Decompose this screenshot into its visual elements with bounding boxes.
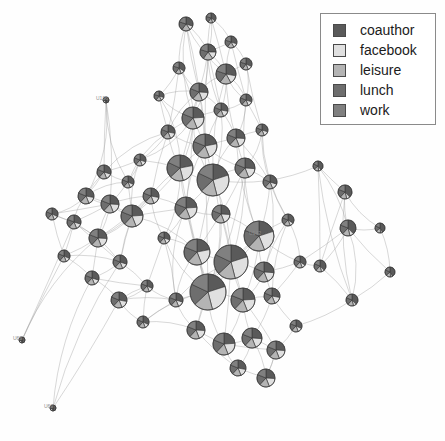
network-node[interactable]: [257, 369, 275, 387]
network-node[interactable]: [294, 256, 306, 268]
legend-label-work: work: [360, 103, 390, 117]
network-node[interactable]: [121, 205, 143, 227]
network-node[interactable]: [167, 155, 193, 181]
network-edge: [288, 220, 300, 262]
network-node[interactable]: [89, 229, 107, 247]
network-node[interactable]: [113, 255, 127, 269]
network-node[interactable]: [267, 341, 285, 359]
network-node[interactable]: [193, 134, 217, 158]
legend-swatch-lunch: [333, 84, 346, 97]
legend-swatch-coauthor: [333, 24, 346, 37]
network-node[interactable]: [216, 64, 236, 84]
network-node[interactable]: [212, 205, 230, 223]
network-node[interactable]: [175, 197, 197, 219]
network-edge: [343, 192, 352, 300]
network-edge: [380, 228, 390, 272]
network-node[interactable]: [122, 176, 134, 188]
network-node[interactable]: [143, 188, 159, 204]
legend-label-facebook: facebook: [360, 43, 417, 57]
network-node[interactable]: [214, 103, 228, 117]
network-node[interactable]: [254, 262, 274, 282]
network-node[interactable]: [214, 245, 248, 279]
network-node[interactable]: [97, 165, 111, 179]
network-node[interactable]: [85, 271, 99, 285]
network-node[interactable]: [244, 221, 274, 251]
network-node[interactable]: [137, 316, 149, 328]
network-node[interactable]: [101, 195, 119, 213]
network-node[interactable]: [263, 175, 277, 189]
network-edge: [262, 130, 270, 182]
legend-item-coauthor: coauthor: [333, 20, 435, 40]
network-node[interactable]: [190, 274, 226, 310]
node-label: U60: [44, 404, 53, 409]
network-node[interactable]: [58, 250, 70, 262]
network-node[interactable]: [169, 293, 183, 307]
network-node[interactable]: [134, 154, 146, 166]
legend-box: coauthor facebook leisure lunch work: [320, 13, 436, 125]
network-node[interactable]: [375, 223, 385, 233]
network-node[interactable]: [213, 333, 235, 355]
network-node[interactable]: [385, 267, 395, 277]
network-node[interactable]: [346, 294, 358, 306]
network-node[interactable]: [197, 164, 229, 196]
legend-item-work: work: [333, 100, 435, 120]
network-node[interactable]: [206, 13, 216, 23]
legend-label-coauthor: coauthor: [360, 23, 414, 37]
network-node[interactable]: [111, 292, 127, 308]
network-node[interactable]: [161, 125, 175, 139]
network-node[interactable]: [256, 124, 268, 136]
network-node[interactable]: [338, 185, 352, 199]
legend-swatch-work: [333, 104, 346, 117]
network-edge: [300, 228, 348, 262]
network-node[interactable]: [314, 260, 326, 272]
network-node[interactable]: [240, 94, 252, 106]
network-node[interactable]: [158, 232, 170, 244]
network-node[interactable]: [235, 158, 255, 178]
network-edge: [53, 262, 120, 408]
network-edge: [22, 256, 64, 340]
network-node[interactable]: [225, 36, 237, 48]
network-node[interactable]: [231, 288, 255, 312]
legend-item-lunch: lunch: [333, 80, 435, 100]
network-node[interactable]: [313, 161, 323, 171]
node-label: U65: [13, 336, 22, 341]
network-edge: [104, 100, 106, 172]
legend-swatch-facebook: [333, 44, 346, 57]
network-node[interactable]: [240, 58, 252, 70]
node-label: U142: [249, 231, 261, 236]
network-node[interactable]: [182, 107, 204, 129]
network-node[interactable]: [227, 129, 245, 147]
network-node[interactable]: [179, 17, 193, 31]
legend-label-leisure: leisure: [360, 63, 401, 77]
legend-item-leisure: leisure: [333, 60, 435, 80]
network-node[interactable]: [340, 220, 356, 236]
network-node[interactable]: [173, 62, 185, 74]
network-node[interactable]: [67, 215, 81, 229]
network-edge: [53, 300, 119, 408]
network-edge: [92, 278, 147, 286]
network-node[interactable]: [187, 321, 205, 339]
network-node[interactable]: [154, 91, 164, 101]
network-node[interactable]: [190, 83, 208, 101]
network-node[interactable]: [184, 239, 210, 265]
network-node[interactable]: [78, 188, 94, 204]
network-node[interactable]: [200, 44, 216, 60]
network-node[interactable]: [141, 280, 153, 292]
node-label: U106: [96, 96, 108, 101]
network-edge: [147, 238, 164, 286]
network-edge: [352, 272, 390, 300]
network-node[interactable]: [290, 320, 302, 332]
legend-swatch-leisure: [333, 64, 346, 77]
network-node[interactable]: [264, 288, 280, 304]
network-node[interactable]: [230, 360, 246, 376]
legend-item-facebook: facebook: [333, 40, 435, 60]
network-edge: [320, 266, 352, 300]
network-node[interactable]: [242, 328, 262, 348]
network-edge: [272, 220, 288, 296]
network-node[interactable]: [282, 214, 294, 226]
network-node[interactable]: [46, 208, 58, 220]
network-edge: [296, 300, 352, 326]
network-edge: [22, 222, 74, 340]
legend-label-lunch: lunch: [360, 83, 393, 97]
network-figure: U106U65U60U142 coauthor facebook leisure…: [0, 0, 445, 441]
